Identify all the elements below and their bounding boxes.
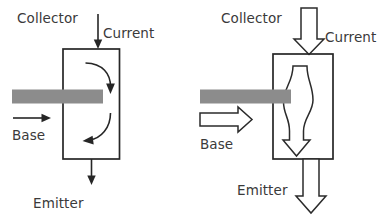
left-emitter-label: Emitter <box>33 195 84 211</box>
transistor-diagram-figure: Collector Current <box>0 0 389 220</box>
right-current-label: Current <box>325 29 376 45</box>
left-base-bar <box>12 90 103 104</box>
left-base-arrow <box>13 114 51 122</box>
right-panel: Collector Current Base <box>200 8 376 213</box>
left-base-label: Base <box>12 127 45 143</box>
right-base-label: Base <box>200 136 233 152</box>
left-collector-arrow <box>94 14 102 49</box>
right-collector-arrow <box>294 8 324 55</box>
left-lower-curved-arrow <box>83 113 111 145</box>
right-collector-label: Collector <box>221 10 282 26</box>
right-base-bar <box>200 90 291 104</box>
right-internal-wavy-arrow <box>283 66 313 156</box>
right-emitter-arrow <box>296 159 326 213</box>
left-panel: Collector Current <box>12 10 154 211</box>
left-upper-curved-arrow <box>86 63 115 94</box>
left-collector-label: Collector <box>17 10 78 26</box>
diagram-canvas: Collector Current <box>0 0 389 220</box>
left-current-label: Current <box>103 25 154 41</box>
right-emitter-label: Emitter <box>237 182 288 198</box>
right-base-arrow <box>200 107 252 132</box>
left-emitter-arrow <box>87 159 95 185</box>
